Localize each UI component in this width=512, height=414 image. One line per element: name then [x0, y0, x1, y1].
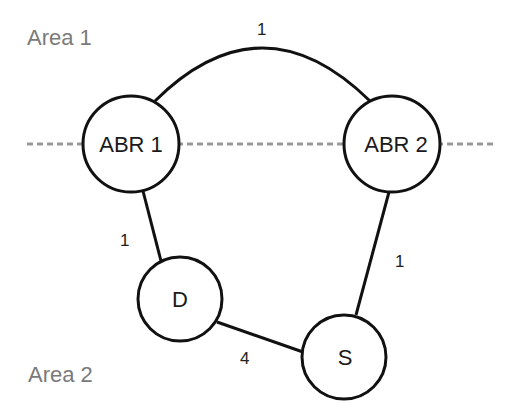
link-abr1-d — [143, 191, 161, 261]
area-1-label: Area 1 — [27, 27, 92, 49]
node-abr2-label: ABR 2 — [364, 134, 428, 156]
node-d-label: D — [172, 289, 188, 311]
cost-label-d-s: 4 — [240, 350, 249, 367]
cost-label-abr2-s: 1 — [395, 253, 404, 270]
diagram-graphics — [0, 0, 512, 414]
area-2-label: Area 2 — [28, 364, 93, 386]
ospf-area-diagram: Area 1 Area 2 ABR 1 ABR 2 D S 1 1 1 4 — [0, 0, 512, 414]
cost-label-abr1-d: 1 — [120, 232, 129, 249]
link-d-s — [217, 322, 303, 352]
node-abr1-label: ABR 1 — [99, 134, 163, 156]
node-s-label: S — [338, 347, 353, 369]
link-abr1-abr2 — [155, 48, 370, 101]
link-abr2-s — [356, 192, 389, 315]
cost-label-abr1-abr2: 1 — [257, 21, 266, 38]
